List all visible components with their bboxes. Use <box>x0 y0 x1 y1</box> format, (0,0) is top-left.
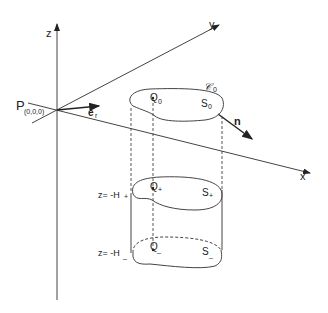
cylinder-diagram: z y x P (0,0,0) e r n 𝒞 0 Q 0 S 0 z= -H … <box>0 0 328 313</box>
qminus-sub: _ <box>156 246 161 254</box>
qplus-label: Q <box>150 181 158 192</box>
splus-sub: + <box>209 192 213 199</box>
origin-coords: (0,0,0) <box>24 108 44 116</box>
x-axis-label: x <box>300 170 306 182</box>
radial-vector-label: e <box>88 107 94 118</box>
x-axis <box>28 103 310 173</box>
radial-vector-sub: r <box>95 112 98 119</box>
y-axis <box>32 25 219 123</box>
sminus-label: S <box>202 246 209 257</box>
q0-label: Q <box>150 92 158 103</box>
s0-sub: 0 <box>208 103 212 110</box>
splus-label: S <box>202 187 209 198</box>
z-axis-label: z <box>46 27 52 39</box>
curve-sub: 0 <box>213 86 217 93</box>
y-axis-label: y <box>209 18 215 30</box>
level-hminus-label: z= -H <box>98 248 120 258</box>
level-hminus-sub: _ <box>122 252 127 260</box>
normal-vector-label: n <box>234 115 241 127</box>
qplus-sub: + <box>158 186 162 193</box>
s0-label: S <box>201 98 208 109</box>
q0-sub: 0 <box>158 98 162 105</box>
level-hplus-sub: + <box>124 193 128 200</box>
sminus-sub: _ <box>208 251 213 259</box>
level-hplus-label: z= -H <box>98 190 120 200</box>
